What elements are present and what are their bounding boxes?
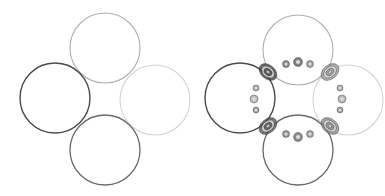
density-lobe	[256, 114, 280, 138]
ring-bottom	[70, 115, 140, 185]
density-lobes	[256, 60, 342, 138]
right-panel-rings-with-density	[205, 15, 383, 185]
ring-top	[70, 13, 140, 83]
ring-left	[20, 63, 90, 133]
four-ring-diagram	[0, 0, 385, 196]
right-rings	[205, 15, 383, 185]
density-lobe	[256, 60, 280, 84]
left-panel-rings	[20, 13, 190, 185]
ring-right	[120, 65, 190, 135]
